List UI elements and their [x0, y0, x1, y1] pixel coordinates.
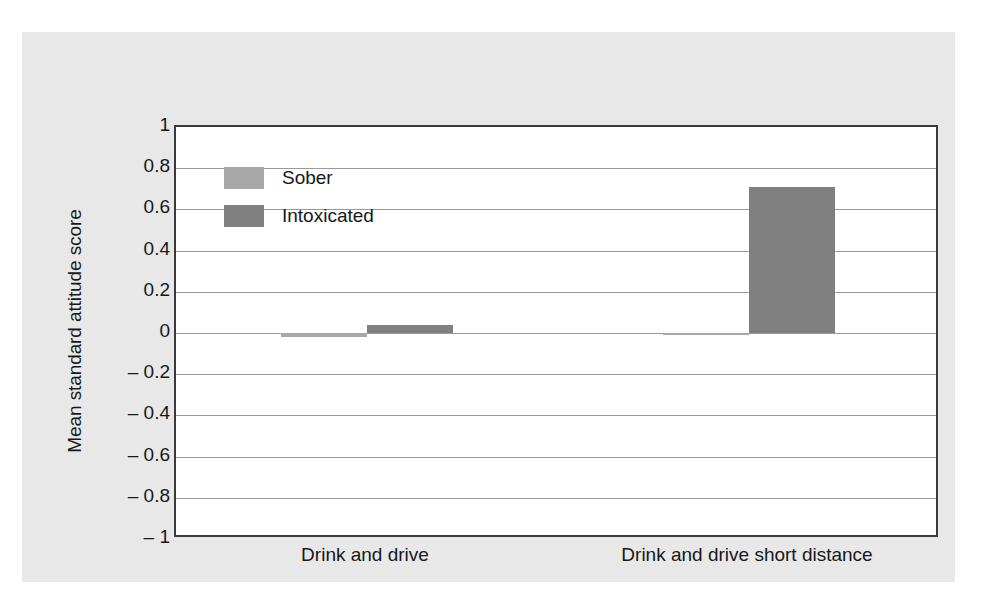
- legend-label: Sober: [282, 167, 333, 189]
- y-tick-label: – 0.6: [100, 444, 170, 466]
- legend-swatch-icon: [224, 167, 264, 189]
- y-axis-title: Mean standard attitude score: [62, 125, 88, 537]
- y-tick-label: – 0.8: [100, 485, 170, 507]
- y-tick-label: – 1: [100, 526, 170, 548]
- bar-sober-group-2: [663, 333, 749, 335]
- y-axis-tick-labels: 10.80.60.40.20– 0.2– 0.4– 0.6– 0.8– 1: [98, 125, 170, 537]
- chart-legend: SoberIntoxicated: [224, 159, 374, 235]
- x-tick-label: Drink and drive: [301, 544, 429, 566]
- legend-item-intoxicated: Intoxicated: [224, 197, 374, 235]
- y-tick-label: 0: [100, 320, 170, 342]
- figure-panel: Mean standard attitude score 10.80.60.40…: [22, 32, 955, 582]
- y-tick-label: 0.2: [100, 279, 170, 301]
- plot-area: SoberIntoxicated: [174, 125, 938, 537]
- x-tick-label: Drink and drive short distance: [621, 544, 872, 566]
- legend-label: Intoxicated: [282, 205, 374, 227]
- legend-item-sober: Sober: [224, 159, 374, 197]
- y-tick-label: 0.8: [100, 155, 170, 177]
- bar-intoxicated-group-2: [749, 187, 835, 333]
- x-axis-tick-labels: Drink and driveDrink and drive short dis…: [174, 544, 938, 578]
- legend-swatch-icon: [224, 205, 264, 227]
- y-tick-label: 0.6: [100, 196, 170, 218]
- y-tick-label: – 0.4: [100, 402, 170, 424]
- bar-sober-group-1: [281, 333, 367, 337]
- y-tick-label: – 0.2: [100, 361, 170, 383]
- bar-intoxicated-group-1: [367, 325, 453, 333]
- y-tick-label: 0.4: [100, 238, 170, 260]
- y-tick-label: 1: [100, 114, 170, 136]
